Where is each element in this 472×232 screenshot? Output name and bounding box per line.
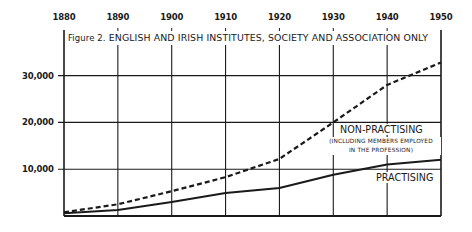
figure-number: Figure 2. (68, 33, 106, 43)
y-tick-label: 30,000 (22, 71, 54, 81)
chart-title: Figure 2. ENGLISH AND IRISH INSTITUTES, … (67, 32, 429, 43)
series-label-practising: PRACTISING (374, 172, 435, 183)
series-label-non-practising: NON-PRACTISING (338, 124, 425, 135)
x-tick-label: 1930 (322, 12, 345, 22)
y-tick-label: 20,000 (22, 117, 54, 127)
title-text: ENGLISH AND IRISH INSTITUTES, SOCIETY AN… (109, 32, 428, 43)
x-tick-label: 1940 (376, 12, 399, 22)
series-sublabel-non-practising: (INCLUDING MEMBERS EMPLOYED IN THE PROFE… (321, 137, 441, 155)
x-tick-label: 1950 (430, 12, 453, 22)
sublabel-line-1: (INCLUDING MEMBERS EMPLOYED (321, 137, 441, 146)
x-tick-label: 1880 (53, 12, 76, 22)
x-tick-label: 1910 (214, 12, 237, 22)
y-tick-label: 10,000 (22, 164, 54, 174)
x-tick-label: 1890 (106, 12, 129, 22)
line-chart: 18801890190019101920193019401950 10,0002… (0, 0, 472, 232)
x-tick-label: 1900 (160, 12, 183, 22)
sublabel-line-2: IN THE PROFESSION) (321, 146, 441, 155)
x-tick-label: 1920 (268, 12, 291, 22)
